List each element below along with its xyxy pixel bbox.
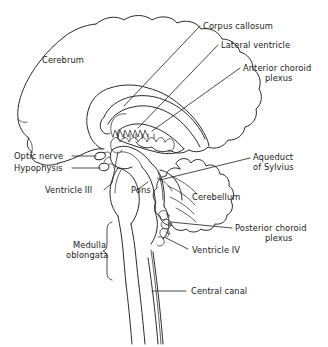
label-anterior-choroid-plexus-line1: Anterior choroid <box>243 63 311 73</box>
pons-structure <box>110 168 139 224</box>
leader-ventricle-iv <box>166 238 188 249</box>
corpus-callosum-structure <box>100 96 205 147</box>
label-anterior-choroid-plexus-line2: plexus <box>265 73 293 83</box>
central-canal-structure <box>151 250 161 344</box>
medulla-oblongata-structure <box>118 216 139 286</box>
brain-anatomy-figure: Cerebrum Corpus callosum Lateral ventric… <box>0 0 328 347</box>
leader-corpus-callosum <box>124 26 200 106</box>
label-corpus-callosum: Corpus callosum <box>203 21 273 31</box>
label-lateral-ventricle: Lateral ventricle <box>221 40 290 50</box>
spinal-cord-structure <box>126 252 163 344</box>
cerebrum-outline <box>18 16 262 166</box>
inner-cortex-contour <box>87 85 209 149</box>
label-hypophysis: Hypophysis <box>14 163 63 173</box>
ventricle-iii-structure <box>110 146 151 168</box>
leader-aqueduct-of-sylvius <box>160 158 250 180</box>
label-posterior-choroid-plexus-line2: plexus <box>265 233 293 243</box>
leader-lateral-ventricle <box>138 45 218 128</box>
label-pons: Pons <box>131 185 151 195</box>
label-aqueduct-line2: of Sylvius <box>253 162 294 172</box>
label-aqueduct-line1: Aqueduct <box>253 152 293 162</box>
label-cerebrum: Cerebrum <box>42 55 84 65</box>
label-medulla-line1: Medulla <box>73 240 106 250</box>
label-central-canal: Central canal <box>191 286 247 296</box>
label-optic-nerve: Optic nerve <box>14 151 63 161</box>
label-cerebellum: Cerebellum <box>192 192 240 202</box>
label-posterior-choroid-plexus-line1: Posterior choroid <box>235 223 307 233</box>
label-ventricle-iii: Ventricle III <box>45 185 92 195</box>
label-medulla-line2: oblongata <box>66 250 108 260</box>
label-ventricle-iv: Ventricle IV <box>192 245 240 255</box>
brain-diagram-svg <box>0 0 328 347</box>
